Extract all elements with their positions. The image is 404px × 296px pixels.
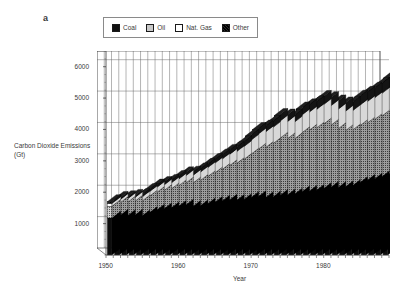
x-tick-label: 1980 bbox=[308, 262, 338, 269]
y-tick-label: 2000 bbox=[55, 188, 89, 195]
legend-item-coal: Coal bbox=[112, 24, 136, 32]
legend-label-coal: Coal bbox=[123, 24, 136, 31]
x-tick-label: 1960 bbox=[163, 262, 193, 269]
y-tick-label: 5000 bbox=[55, 94, 89, 101]
x-axis-title: Year bbox=[233, 275, 246, 282]
y-tick-label: 4000 bbox=[55, 125, 89, 132]
x-tick-label: 1950 bbox=[91, 262, 121, 269]
legend-label-nat-gas: Nat. Gas bbox=[186, 24, 212, 31]
legend-item-nat-gas: Nat. Gas bbox=[175, 24, 212, 32]
bar-series-group bbox=[107, 71, 390, 255]
legend-label-oil: Oil bbox=[157, 24, 165, 31]
legend-item-oil: Oil bbox=[146, 24, 165, 32]
legend-swatch-oil-icon bbox=[146, 24, 154, 32]
legend-swatch-other-icon bbox=[222, 24, 230, 32]
bar-column bbox=[107, 195, 120, 255]
legend-swatch-nat-gas-icon bbox=[175, 24, 183, 32]
legend-swatch-coal-icon bbox=[112, 24, 120, 32]
y-tick-label: 1000 bbox=[55, 220, 89, 227]
chart-legend: Coal Oil Nat. Gas Other bbox=[103, 17, 258, 38]
y-tick-label: 3000 bbox=[55, 157, 89, 164]
stacked-bar-chart bbox=[97, 51, 390, 262]
y-tick-label: 6000 bbox=[55, 63, 89, 70]
plot-area bbox=[97, 51, 390, 262]
figure-panel: a Coal Oil Nat. Gas Other Carbon Dioxide… bbox=[0, 0, 404, 296]
legend-item-other: Other bbox=[222, 24, 249, 32]
legend-label-other: Other bbox=[233, 24, 249, 31]
panel-letter-label: a bbox=[43, 13, 48, 23]
x-tick-label: 1970 bbox=[236, 262, 266, 269]
